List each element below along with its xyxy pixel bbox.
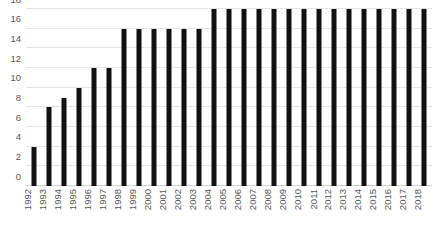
x-tick-label: 2007: [248, 189, 258, 210]
x-tick-label: 2008: [264, 189, 274, 210]
y-tick-label: 10: [10, 73, 21, 83]
y-tick-label: 18: [10, 0, 21, 4]
bar[interactable]: [226, 9, 231, 186]
bar-slot: [237, 9, 252, 186]
bar[interactable]: [362, 9, 367, 186]
bar[interactable]: [121, 29, 126, 186]
bar-slot: [131, 9, 146, 186]
bar-slot: [191, 9, 206, 186]
bar-slot: [146, 9, 161, 186]
y-axis-tick-labels: 024681012141618: [0, 9, 26, 186]
bar-slot: [101, 9, 116, 186]
x-tick-label: 2012: [324, 189, 334, 210]
bar[interactable]: [422, 9, 427, 186]
bar-slot: [342, 9, 357, 186]
bar[interactable]: [31, 147, 36, 186]
bar-slot: [327, 9, 342, 186]
x-tick-label: 2004: [203, 189, 213, 210]
bar[interactable]: [272, 9, 277, 186]
x-tick-label: 1993: [38, 189, 48, 210]
y-tick-label: 6: [16, 113, 21, 123]
bar-slot: [402, 9, 417, 186]
bar-slot: [372, 9, 387, 186]
y-tick-label: 8: [16, 93, 21, 103]
bar-slot: [116, 9, 131, 186]
bar[interactable]: [302, 9, 307, 186]
y-tick-label: 2: [16, 152, 21, 162]
bar[interactable]: [181, 29, 186, 186]
x-tick-label: 2005: [218, 189, 228, 210]
x-tick-label: 1996: [83, 189, 93, 210]
y-tick-label: 0: [16, 172, 21, 182]
x-tick-label: 1995: [68, 189, 78, 210]
x-tick-label: 2006: [233, 189, 243, 210]
bar-slot: [297, 9, 312, 186]
x-tick-label: 2017: [399, 189, 409, 210]
bar[interactable]: [106, 68, 111, 186]
bar-slot: [267, 9, 282, 186]
y-tick-label: 12: [10, 54, 21, 64]
bar[interactable]: [347, 9, 352, 186]
bar[interactable]: [196, 29, 201, 186]
bar-slot: [417, 9, 432, 186]
x-tick-label: 2009: [279, 189, 289, 210]
bar[interactable]: [287, 9, 292, 186]
bar-slot: [41, 9, 56, 186]
y-tick-label: 16: [10, 14, 21, 24]
x-tick-label: 1992: [23, 189, 33, 210]
bar[interactable]: [242, 9, 247, 186]
bar[interactable]: [211, 9, 216, 186]
bar[interactable]: [166, 29, 171, 186]
bar-slot: [282, 9, 297, 186]
bar[interactable]: [392, 9, 397, 186]
x-tick-label: 2002: [173, 189, 183, 210]
x-tick-label: 2001: [158, 189, 168, 210]
bar[interactable]: [377, 9, 382, 186]
bar-slot: [252, 9, 267, 186]
x-tick-label: 2014: [354, 189, 364, 210]
x-tick-label: 2003: [188, 189, 198, 210]
x-tick-slot: 2018: [417, 188, 432, 229]
x-tick-label: 1998: [113, 189, 123, 210]
bar-slot: [176, 9, 191, 186]
bar[interactable]: [257, 9, 262, 186]
bar-slot: [56, 9, 71, 186]
y-tick-label: 14: [10, 34, 21, 44]
bar[interactable]: [332, 9, 337, 186]
bar[interactable]: [46, 107, 51, 186]
bar-slot: [161, 9, 176, 186]
x-tick-label: 1997: [98, 189, 108, 210]
bar[interactable]: [151, 29, 156, 186]
bar[interactable]: [407, 9, 412, 186]
bar[interactable]: [61, 98, 66, 187]
bar-slot: [26, 9, 41, 186]
bar-slot: [357, 9, 372, 186]
bar-slot: [387, 9, 402, 186]
x-tick-label: 1994: [53, 189, 63, 210]
x-tick-label: 2010: [294, 189, 304, 210]
bar[interactable]: [317, 9, 322, 186]
bar[interactable]: [91, 68, 96, 186]
x-tick-label: 2011: [309, 189, 319, 209]
bar[interactable]: [76, 88, 81, 186]
plot-area: [26, 9, 432, 186]
x-tick-label: 2013: [339, 189, 349, 210]
x-tick-label: 2000: [143, 189, 153, 210]
y-tick-label: 4: [16, 132, 21, 142]
bar-slot: [221, 9, 236, 186]
bar[interactable]: [136, 29, 141, 186]
bars-layer: [26, 9, 432, 186]
x-tick-label: 1999: [128, 189, 138, 210]
bar-slot: [206, 9, 221, 186]
x-axis-tick-labels: 1992199319941995199619971998199920002001…: [26, 188, 432, 229]
bar-slot: [86, 9, 101, 186]
x-tick-label: 2018: [414, 189, 424, 210]
bar-slot: [312, 9, 327, 186]
x-tick-label: 2015: [369, 189, 379, 210]
x-tick-label: 2016: [384, 189, 394, 210]
bar-slot: [71, 9, 86, 186]
bar-chart-figure: 024681012141618 199219931994199519961997…: [0, 0, 436, 229]
